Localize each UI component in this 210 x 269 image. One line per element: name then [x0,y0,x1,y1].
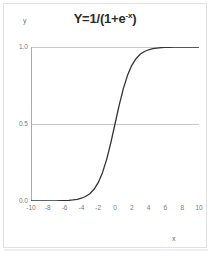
y-tick-label: 0.0 [6,198,28,205]
chart-title-tail: ) [132,11,136,26]
y-tick-label-group: 0.00.51.0 [3,0,28,269]
chart-figure: Y=1/(1+e-x) y x 0.00.51.0 -10-8-6-4-2024… [0,0,210,269]
chart-title-base: Y=1/(1+e [74,11,126,26]
plot-svg [31,47,199,201]
x-tick-label-group: -10-8-6-4-20246810 [31,205,199,217]
y-tick-label: 0.5 [6,121,28,128]
y-tick-label: 1.0 [6,44,28,51]
x-axis-label: x [172,235,176,242]
x-tick-label: 10 [189,205,209,212]
chart-title: Y=1/(1+e-x) [0,11,210,26]
figure-border-shadow [4,249,208,251]
plot-area [31,47,199,201]
